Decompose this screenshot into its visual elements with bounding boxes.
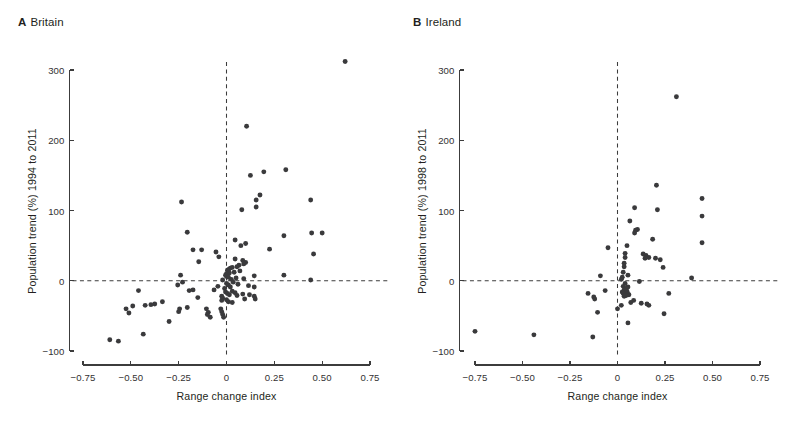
data-point xyxy=(666,291,671,296)
data-point xyxy=(632,205,637,210)
data-point xyxy=(130,304,135,309)
plot-area-britain: −1000100200300−0.75−0.50−0.2500.250.500.… xyxy=(0,0,400,432)
data-point xyxy=(254,205,259,210)
figure-root: ABritain −1000100200300−0.75−0.50−0.2500… xyxy=(0,0,795,432)
data-point xyxy=(590,335,595,340)
data-point xyxy=(531,332,536,337)
data-point xyxy=(107,337,112,342)
data-point xyxy=(622,294,627,299)
data-point xyxy=(216,254,221,259)
data-points xyxy=(473,94,705,339)
data-point xyxy=(136,288,141,293)
x-axis-title: Range change index xyxy=(568,390,668,402)
data-point xyxy=(254,198,259,203)
data-point xyxy=(243,241,248,246)
x-tick-label-2: −0.25 xyxy=(558,372,583,383)
data-point xyxy=(236,282,241,287)
data-point xyxy=(261,169,266,174)
data-point xyxy=(606,245,611,250)
data-point xyxy=(632,231,637,236)
data-point xyxy=(195,295,200,300)
data-point xyxy=(252,285,257,290)
data-point xyxy=(124,306,129,311)
data-point xyxy=(241,261,246,266)
data-point xyxy=(234,275,239,280)
data-point xyxy=(235,264,240,269)
data-point xyxy=(655,207,660,212)
data-point xyxy=(619,277,624,282)
data-point xyxy=(654,183,659,188)
data-point xyxy=(241,276,246,281)
data-point xyxy=(621,270,626,275)
x-tick-label-6: 0.75 xyxy=(750,372,769,383)
data-point xyxy=(167,319,172,324)
y-axis-title: Population trend (%) 1998 to 2011 xyxy=(416,70,428,351)
data-point xyxy=(233,257,238,262)
y-axis-title: Population trend (%) 1994 to 2011 xyxy=(26,70,38,351)
data-point xyxy=(220,278,225,283)
data-point xyxy=(623,251,628,256)
data-point xyxy=(700,214,705,219)
data-point xyxy=(267,247,272,252)
data-point xyxy=(622,264,627,269)
data-points xyxy=(107,59,347,344)
data-point xyxy=(244,124,249,129)
data-point xyxy=(343,59,348,64)
data-point xyxy=(283,167,288,172)
data-point xyxy=(639,301,644,306)
data-point xyxy=(215,284,220,289)
data-point xyxy=(689,275,694,280)
data-point xyxy=(643,256,648,261)
data-point xyxy=(308,198,313,203)
data-point xyxy=(311,252,316,257)
data-point xyxy=(281,233,286,238)
data-point xyxy=(623,255,628,260)
data-point xyxy=(175,283,180,288)
data-point xyxy=(176,309,181,314)
x-tick-label-0: −0.75 xyxy=(71,372,96,383)
data-point xyxy=(595,310,600,315)
x-tick-label-1: −0.50 xyxy=(510,372,535,383)
data-point xyxy=(231,280,236,285)
x-tick-label-5: 0.50 xyxy=(313,372,332,383)
data-point xyxy=(320,231,325,236)
data-point xyxy=(627,219,632,224)
data-point xyxy=(615,306,620,311)
scatter-plot-ireland xyxy=(395,0,795,432)
data-point xyxy=(252,273,257,278)
data-point xyxy=(592,297,597,302)
data-point xyxy=(126,311,131,316)
data-point xyxy=(309,231,314,236)
data-point xyxy=(227,292,232,297)
data-point xyxy=(626,273,631,278)
data-point xyxy=(160,299,165,304)
data-point xyxy=(598,273,603,278)
data-point xyxy=(650,237,655,242)
data-point xyxy=(187,288,192,293)
data-point xyxy=(208,315,213,320)
data-point xyxy=(258,193,263,198)
x-tick-label-3: 0 xyxy=(615,372,620,383)
data-point xyxy=(180,280,185,285)
data-point xyxy=(185,305,190,310)
data-point xyxy=(238,243,243,248)
data-point xyxy=(662,311,667,316)
x-tick-label-6: 0.75 xyxy=(360,372,379,383)
data-point xyxy=(637,279,642,284)
data-point xyxy=(185,230,190,235)
data-point xyxy=(700,196,705,201)
data-point xyxy=(116,339,121,344)
x-tick-label-0: −0.75 xyxy=(463,372,488,383)
data-point xyxy=(473,329,478,334)
x-tick-label-5: 0.50 xyxy=(703,372,722,383)
data-point xyxy=(191,247,196,252)
data-point xyxy=(141,332,146,337)
data-point xyxy=(308,278,313,283)
x-tick-label-4: 0.25 xyxy=(265,372,284,383)
data-point xyxy=(619,303,624,308)
data-point xyxy=(625,243,630,248)
data-point xyxy=(603,288,608,293)
data-point xyxy=(661,265,666,270)
data-point xyxy=(658,257,663,262)
data-point xyxy=(247,292,252,297)
